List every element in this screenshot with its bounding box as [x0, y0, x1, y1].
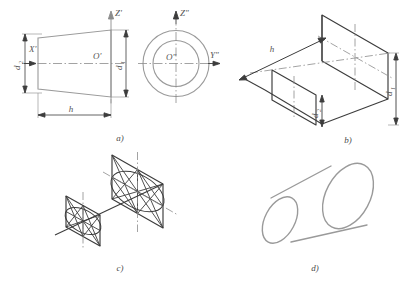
panel-b-dim-d2-label: d [310, 113, 320, 118]
caption-a: a) [116, 133, 124, 143]
side-axis-z-label: Z" [180, 8, 189, 18]
figure-canvas: d 2 d 1 h Z' X' O' Z" Y" O" [0, 0, 418, 282]
technical-drawing: d 2 d 1 h Z' X' O' Z" Y" O" [0, 0, 418, 282]
caption-d: d) [311, 263, 319, 273]
origin-label-front: O' [93, 51, 102, 61]
panel-b-dim-d2-sub: 2 [316, 109, 322, 112]
caption-c: c) [117, 263, 124, 273]
axis-z-label: Z' [115, 8, 123, 18]
dim-large-diameter-label: d [114, 65, 124, 70]
dim-small-diameter-label: d [12, 65, 22, 70]
origin-label-side: O" [166, 52, 176, 62]
caption-b: b) [344, 135, 352, 145]
side-axis-y-label: Y" [210, 50, 219, 60]
dim-large-diameter-sub: 1 [120, 61, 126, 64]
dim-height-label: h [69, 104, 74, 114]
axis-x-label: X' [28, 44, 37, 54]
dim-small-diameter-sub: 2 [18, 61, 24, 64]
panel-b-dim-height-label: h [270, 44, 275, 54]
panel-b-dim-d1-label: d [384, 91, 394, 96]
panel-b-dim-d1-sub: 1 [390, 87, 396, 90]
